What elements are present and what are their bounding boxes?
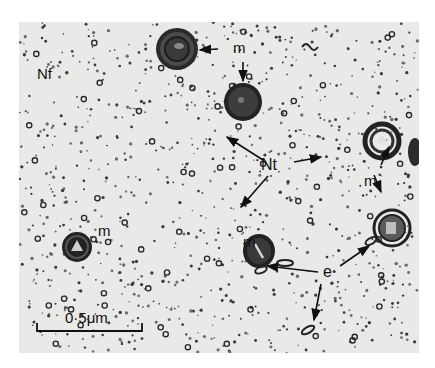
filament-dot <box>329 223 331 225</box>
filament-dot <box>354 112 356 114</box>
filament-dot <box>149 60 152 63</box>
filament-dot <box>401 45 404 48</box>
filament-dot <box>338 129 341 132</box>
filament-dot <box>401 66 403 68</box>
filament-dot <box>122 117 124 119</box>
filament-dot <box>180 95 182 97</box>
label-m-left: m <box>98 222 111 239</box>
filament-dot <box>282 62 284 64</box>
filament-dot <box>347 169 349 171</box>
filament-dot <box>380 166 383 169</box>
filament-dot <box>400 23 403 26</box>
filament-dot <box>28 95 30 97</box>
filament-dot <box>99 241 102 244</box>
filament-dot <box>121 293 123 295</box>
filament-dot <box>187 163 189 165</box>
filament-dot <box>318 304 321 307</box>
filament-dot <box>365 289 368 292</box>
filament-dot <box>223 26 225 28</box>
filament-dot <box>132 114 134 116</box>
filament-dot <box>335 227 338 230</box>
filament-dot <box>297 344 299 346</box>
filament-dot <box>178 306 180 308</box>
filament-dot <box>68 345 70 347</box>
filament-dot <box>230 135 232 137</box>
filament-dot <box>250 34 253 37</box>
label-m-center: m <box>243 233 256 250</box>
filament-dot <box>182 183 184 185</box>
filament-dot <box>234 220 236 222</box>
filament-dot <box>106 145 108 147</box>
filament-dot <box>281 238 283 240</box>
filament-dot <box>222 198 224 200</box>
filament-dot <box>339 143 341 145</box>
filament-dot <box>128 62 131 65</box>
filament-dot <box>49 285 51 287</box>
filament-dot <box>25 50 27 52</box>
filament-dot <box>41 334 42 335</box>
filament-dot <box>395 92 398 95</box>
filament-dot <box>219 111 222 114</box>
filament-dot <box>125 190 127 192</box>
filament-dot <box>384 116 387 119</box>
filament-dot <box>72 55 74 57</box>
filament-dot <box>172 221 174 223</box>
filament-dot <box>127 176 129 178</box>
filament-dot <box>208 95 210 97</box>
filament-dot <box>338 291 340 293</box>
filament-dot <box>206 243 208 245</box>
filament-dot <box>138 51 140 53</box>
filament-dot <box>206 108 208 110</box>
filament-dot <box>405 264 408 267</box>
mitochondrion-6 <box>374 210 410 246</box>
filament-dot <box>318 113 321 116</box>
filament-dot <box>55 230 57 232</box>
filament-dot <box>212 158 215 161</box>
filament-dot <box>255 306 257 308</box>
filament-dot <box>118 272 119 273</box>
filament-dot <box>282 325 285 328</box>
filament-dot <box>211 108 212 109</box>
filament-dot <box>278 35 281 38</box>
filament-dot <box>63 123 66 126</box>
filament-dot <box>43 128 46 131</box>
filament-dot <box>274 26 277 29</box>
filament-dot <box>145 143 147 145</box>
filament-dot <box>334 65 337 68</box>
filament-dot <box>197 190 200 193</box>
filament-dot <box>203 232 205 234</box>
filament-dot <box>306 237 309 240</box>
filament-dot <box>47 279 49 281</box>
micrograph-svg: Nf m Nt m m m e 0·5μm <box>19 22 419 353</box>
filament-dot <box>84 346 86 348</box>
filament-dot <box>328 120 331 123</box>
filament-dot <box>337 249 340 252</box>
filament-dot <box>404 199 406 201</box>
filament-dot <box>53 204 55 206</box>
filament-dot <box>85 23 88 26</box>
filament-dot <box>53 243 56 246</box>
filament-dot <box>330 282 333 285</box>
filament-dot <box>69 229 71 231</box>
filament-dot <box>391 131 392 132</box>
filament-dot <box>214 170 216 172</box>
filament-dot <box>403 54 405 56</box>
filament-dot <box>77 281 80 284</box>
filament-dot <box>296 247 298 249</box>
filament-dot <box>55 333 57 335</box>
filament-dot <box>346 139 347 140</box>
filament-dot <box>130 126 133 129</box>
filament-dot <box>44 40 47 43</box>
filament-dot <box>20 165 23 168</box>
filament-dot <box>228 233 231 236</box>
filament-dot <box>283 152 286 155</box>
filament-dot <box>248 81 250 83</box>
filament-dot <box>207 90 210 93</box>
filament-dot <box>87 69 89 71</box>
filament-dot <box>336 29 339 32</box>
filament-dot <box>348 275 351 278</box>
filament-dot <box>343 311 346 314</box>
filament-dot <box>397 301 400 304</box>
filament-dot <box>208 119 210 121</box>
filament-dot <box>166 307 168 309</box>
